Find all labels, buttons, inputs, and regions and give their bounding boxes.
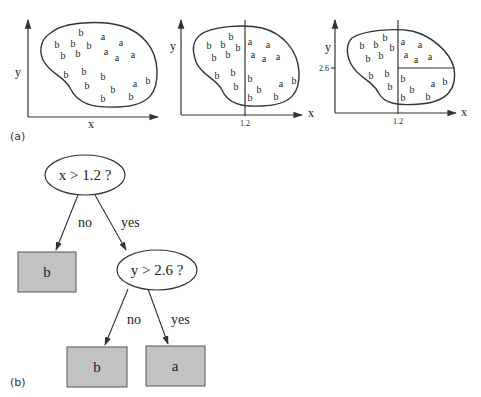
scatter-plot-xy-split: y x 1.2 2.6 baabbbbbaaabbbbbabbb bbox=[319, 20, 467, 126]
data-point-b: b bbox=[76, 48, 81, 59]
y-split-tick-label: 2.6 bbox=[319, 64, 329, 73]
edge-child-no bbox=[105, 289, 128, 345]
data-point-b: b bbox=[207, 40, 212, 51]
data-point-b: b bbox=[61, 50, 66, 61]
child-question: y > 2.6 ? bbox=[131, 262, 184, 278]
data-point-a: a bbox=[431, 78, 436, 89]
data-point-a: a bbox=[131, 49, 136, 60]
data-point-b: b bbox=[229, 31, 234, 42]
data-point-a: a bbox=[428, 51, 433, 62]
y-axis-label: y bbox=[325, 40, 331, 54]
data-point-a: a bbox=[414, 54, 419, 65]
edge-child-yes bbox=[148, 289, 168, 344]
data-point-b: b bbox=[87, 40, 92, 51]
data-point-b: b bbox=[360, 40, 365, 51]
data-point-b: b bbox=[64, 69, 69, 80]
data-point-b: b bbox=[234, 81, 239, 92]
data-point-b: b bbox=[274, 91, 279, 102]
decision-tree: no yes no yes x > 1.2 ? b y > 2.6 ? b a bbox=[18, 155, 205, 387]
data-point-b: b bbox=[369, 70, 374, 81]
edge-root-no bbox=[56, 195, 78, 250]
data-point-b: b bbox=[443, 76, 448, 87]
data-point-b: b bbox=[85, 80, 90, 91]
data-point-a: a bbox=[133, 78, 138, 89]
data-point-a: a bbox=[279, 78, 284, 89]
decision-tree-figure: y x babbbabbaaabbbbbabbb (a) y x 1.2 baa… bbox=[0, 0, 481, 397]
data-point-a: a bbox=[266, 39, 271, 50]
data-point-b: b bbox=[82, 66, 87, 77]
data-point-a: a bbox=[404, 49, 409, 60]
data-point-b: b bbox=[383, 32, 388, 43]
data-point-b: b bbox=[366, 53, 371, 64]
data-point-b: b bbox=[379, 50, 384, 61]
x-split-tick-label: 1.2 bbox=[240, 119, 250, 128]
x-axis-label: x bbox=[461, 105, 467, 119]
data-point-b: b bbox=[111, 84, 116, 95]
data-region-outline bbox=[41, 23, 157, 108]
data-point-b: b bbox=[401, 73, 406, 84]
data-point-b: b bbox=[226, 49, 231, 60]
y-axis-label: y bbox=[170, 39, 176, 53]
leaf-label: b bbox=[43, 264, 51, 280]
root-question: x > 1.2 ? bbox=[59, 167, 112, 183]
data-point-b: b bbox=[248, 92, 253, 103]
edge-label-yes: yes bbox=[121, 215, 140, 230]
edge-label-no: no bbox=[78, 215, 92, 230]
data-points: babbbabbaaabbbbbabbb bbox=[55, 27, 151, 104]
data-point-b: b bbox=[257, 84, 262, 95]
data-point-b: b bbox=[215, 70, 220, 81]
x-axis-label: x bbox=[88, 117, 94, 131]
data-point-b: b bbox=[55, 39, 60, 50]
data-point-b: b bbox=[388, 81, 393, 92]
data-point-b: b bbox=[79, 27, 84, 38]
data-point-a: a bbox=[119, 37, 124, 48]
data-points: baabbbbbaaabbbbbabbb bbox=[207, 31, 297, 103]
data-point-b: b bbox=[401, 92, 406, 103]
data-point-b: b bbox=[385, 68, 390, 79]
panel-b-label: (b) bbox=[10, 376, 26, 389]
edge-label-yes: yes bbox=[171, 312, 190, 327]
leaf-label: a bbox=[172, 358, 179, 374]
data-point-a: a bbox=[262, 53, 267, 64]
data-point-b: b bbox=[212, 52, 217, 63]
data-point-b: b bbox=[426, 91, 431, 102]
data-point-a: a bbox=[101, 31, 106, 42]
y-axis-label: y bbox=[15, 65, 21, 79]
data-point-a: a bbox=[401, 36, 406, 47]
data-point-b: b bbox=[236, 42, 241, 53]
leaf-label: b bbox=[93, 359, 101, 375]
panel-a-label: (a) bbox=[10, 130, 25, 143]
data-point-a: a bbox=[276, 51, 281, 62]
data-point-a: a bbox=[115, 52, 120, 63]
data-point-a: a bbox=[248, 36, 253, 47]
scatter-plot-unsplit: y x babbbabbaaabbbbbabbb bbox=[15, 20, 158, 131]
scatter-plot-x-split: y x 1.2 baabbbbbaaabbbbbabbb bbox=[170, 20, 314, 128]
edge-label-no: no bbox=[127, 312, 141, 327]
data-point-b: b bbox=[231, 67, 236, 78]
data-point-b: b bbox=[101, 93, 106, 104]
data-point-b: b bbox=[248, 73, 253, 84]
data-point-b: b bbox=[390, 42, 395, 53]
x-split-tick-label: 1.2 bbox=[393, 117, 403, 126]
data-point-b: b bbox=[129, 91, 134, 102]
data-point-b: b bbox=[410, 84, 415, 95]
data-point-b: b bbox=[292, 75, 297, 86]
data-point-a: a bbox=[418, 39, 423, 50]
data-point-a: a bbox=[251, 49, 256, 60]
data-point-a: a bbox=[104, 46, 109, 57]
data-point-b: b bbox=[146, 75, 151, 86]
data-point-b: b bbox=[101, 71, 106, 82]
data-point-b: b bbox=[374, 39, 379, 50]
x-axis-label: x bbox=[308, 106, 314, 120]
data-region-outline bbox=[193, 26, 299, 106]
